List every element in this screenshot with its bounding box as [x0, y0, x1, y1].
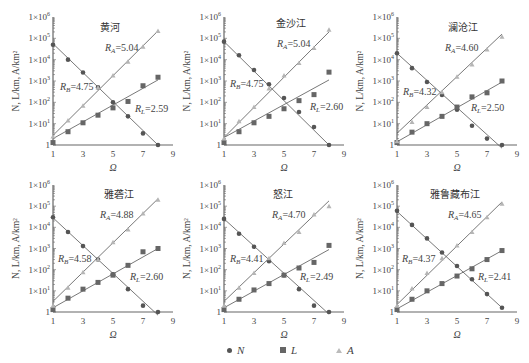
circle-marker-icon — [227, 348, 232, 353]
point-l — [237, 129, 242, 134]
x-tick-label: 7 — [485, 316, 490, 326]
y-tick-label: 1×106 — [199, 11, 221, 22]
x-tick-label: 5 — [282, 316, 287, 326]
y-tick-label: 1×101 — [28, 118, 50, 129]
x-tick-label: 7 — [312, 149, 317, 159]
y-tick-label: 1×103 — [372, 243, 394, 254]
point-n — [81, 70, 86, 75]
point-n — [410, 223, 415, 228]
y-tick-label: 1×105 — [28, 32, 50, 43]
point-a — [312, 212, 317, 217]
panel-1: 11×1011×1021×1031×1041×1051×10613579ΩN, … — [11, 11, 176, 173]
legend-label-n: N — [237, 344, 244, 356]
point-l — [440, 114, 445, 119]
x-axis-label: Ω — [280, 329, 287, 340]
point-n — [141, 131, 146, 136]
point-l — [470, 94, 475, 99]
y-tick-label: 1 — [46, 307, 51, 317]
point-a — [500, 34, 505, 39]
point-n — [252, 68, 257, 73]
x-axis-label: Ω — [453, 162, 460, 173]
y-tick-label: 1×102 — [28, 96, 50, 107]
ratio-annotation-l: RL=2.59 — [134, 103, 168, 116]
point-l — [252, 287, 257, 292]
x-tick-label: 5 — [282, 149, 287, 159]
x-tick-label: 3 — [425, 316, 430, 326]
point-l — [455, 274, 460, 279]
legend-label-l: L — [291, 344, 297, 356]
point-n — [425, 236, 430, 241]
point-n — [51, 215, 56, 220]
point-l — [297, 265, 302, 270]
point-n — [327, 310, 332, 315]
point-n — [470, 277, 475, 282]
y-tick-label: 1×103 — [199, 243, 221, 254]
y-tick-label: 1×103 — [28, 243, 50, 254]
point-a — [410, 119, 415, 124]
point-a — [126, 227, 131, 232]
point-n — [312, 303, 317, 308]
x-tick-label: 3 — [252, 149, 257, 159]
x-tick-label: 1 — [222, 316, 227, 326]
point-l — [327, 70, 332, 75]
panel-3: 11×1011×1021×1031×1041×1051×10613579ΩN, … — [355, 11, 520, 173]
point-l — [156, 246, 161, 251]
y-tick-label: 1×106 — [199, 179, 221, 190]
panel-title: 澜沧江 — [448, 21, 478, 33]
ratio-annotation-a: RA=5.04 — [276, 38, 311, 51]
y-tick-label: 1×102 — [28, 264, 50, 275]
point-n — [395, 51, 400, 56]
ratio-annotation-a: RA=4.65 — [447, 209, 482, 222]
panel-title: 雅砻江 — [104, 188, 134, 200]
x-tick-label: 1 — [51, 149, 56, 159]
ratio-annotation-b: RB=4.75 — [59, 81, 94, 94]
point-l — [222, 140, 227, 145]
point-l — [222, 307, 227, 312]
point-l — [500, 248, 505, 253]
x-axis-label: Ω — [109, 162, 116, 173]
x-tick-label: 1 — [395, 149, 400, 159]
point-n — [485, 136, 490, 141]
point-n — [111, 100, 116, 105]
y-tick-label: 1×106 — [372, 11, 394, 22]
panel-title: 雅鲁藏布江 — [430, 188, 480, 200]
point-n — [297, 287, 302, 292]
ratio-annotation-b: RB=4.75 — [229, 78, 264, 91]
point-n — [51, 42, 56, 47]
x-tick-label: 3 — [81, 316, 86, 326]
point-l — [312, 260, 317, 265]
point-l — [51, 307, 56, 312]
ratio-annotation-b: RB=4.37 — [401, 253, 436, 266]
x-tick-label: 5 — [111, 316, 116, 326]
point-l — [282, 106, 287, 111]
ratio-annotation-l: RL=2.50 — [470, 102, 504, 115]
point-n — [312, 125, 317, 130]
point-l — [395, 307, 400, 312]
y-tick-label: 1×106 — [28, 11, 50, 22]
ratio-annotation-a: RA=4.60 — [444, 42, 479, 55]
point-n — [222, 217, 227, 222]
y-tick-label: 1×103 — [28, 75, 50, 86]
y-axis-label: N, L/km, A/km² — [11, 50, 21, 111]
point-n — [252, 245, 257, 250]
y-tick-label: 1×104 — [199, 54, 221, 65]
y-tick-label: 1×105 — [372, 200, 394, 211]
point-n — [156, 143, 161, 148]
point-n — [237, 231, 242, 236]
point-n — [222, 39, 227, 44]
point-a — [297, 60, 302, 65]
point-l — [282, 273, 287, 278]
point-l — [96, 280, 101, 285]
point-a — [126, 59, 131, 64]
y-tick-label: 1×101 — [372, 285, 394, 296]
point-l — [455, 105, 460, 110]
y-tick-label: 1×103 — [372, 75, 394, 86]
x-tick-label: 5 — [455, 316, 460, 326]
y-tick-label: 1×105 — [372, 32, 394, 43]
point-n — [126, 287, 131, 292]
point-n — [500, 305, 505, 310]
point-a — [111, 240, 116, 245]
point-n — [156, 310, 161, 315]
x-axis-label: Ω — [280, 162, 287, 173]
x-tick-label: 9 — [171, 316, 176, 326]
